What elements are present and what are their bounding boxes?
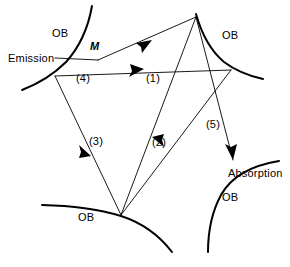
ray-diagram-figure: OB OB OB OB Emission Absorption M (1) (2… bbox=[0, 0, 290, 267]
ray-segment-2 bbox=[121, 17, 196, 215]
ray-segment-upper bbox=[98, 17, 196, 60]
boundary-label-bottom-right: OB bbox=[222, 192, 238, 203]
ray-label-4: (4) bbox=[76, 73, 90, 84]
boundary-label-top-right: OB bbox=[222, 30, 238, 41]
ray-1-arrowhead bbox=[129, 64, 144, 77]
ray-label-2: (2) bbox=[152, 137, 166, 148]
ray-label-3: (3) bbox=[89, 136, 103, 147]
boundary-curve-top-right bbox=[196, 14, 263, 79]
boundary-label-top-left: OB bbox=[52, 28, 68, 39]
ray-label-1: (1) bbox=[146, 73, 160, 84]
ray-segment-4 bbox=[55, 58, 98, 60]
diagram-canvas bbox=[0, 0, 290, 267]
absorption-label: Absorption bbox=[228, 168, 283, 179]
emission-label: Emission bbox=[8, 53, 54, 64]
ray-segment-connector bbox=[121, 70, 231, 215]
ray-5-arrowhead bbox=[225, 144, 237, 160]
point-m-label: M bbox=[90, 41, 99, 52]
ray-segment-3 bbox=[55, 76, 121, 215]
boundary-label-bottom-left: OB bbox=[78, 212, 94, 223]
ray-label-5: (5) bbox=[206, 119, 220, 130]
boundary-curve-bottom-left bbox=[42, 205, 172, 252]
